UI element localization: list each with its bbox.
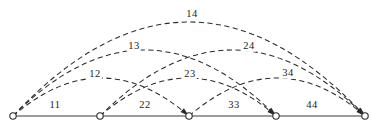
node-4 xyxy=(273,113,279,119)
arc-label-34: 34 xyxy=(281,68,295,79)
baseline-label-11: 11 xyxy=(50,100,61,111)
baseline-label-33: 33 xyxy=(228,100,239,111)
node-2 xyxy=(97,113,103,119)
arc-23 xyxy=(100,78,276,116)
arc-diagram-canvas: 12 23 34 13 24 14 11 22 33 44 xyxy=(0,0,378,125)
arc-12 xyxy=(13,78,189,116)
arc-label-14: 14 xyxy=(185,9,199,20)
arc-label-12: 12 xyxy=(88,69,102,80)
baseline-label-22: 22 xyxy=(139,100,150,111)
arc-label-13: 13 xyxy=(127,41,141,52)
node-5 xyxy=(362,113,368,119)
node-1 xyxy=(10,113,16,119)
arc-34 xyxy=(189,78,365,116)
baseline-layer xyxy=(10,113,368,119)
baseline-label-44: 44 xyxy=(306,100,317,111)
arc-label-23: 23 xyxy=(183,69,197,80)
node-3 xyxy=(186,113,192,119)
arc-label-24: 24 xyxy=(242,41,256,52)
